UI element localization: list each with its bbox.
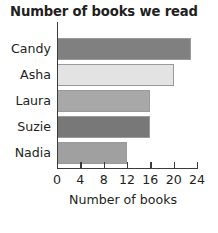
category-label-asha: Asha	[20, 64, 57, 86]
bar-laura[interactable]	[57, 90, 150, 112]
bar-asha[interactable]	[57, 64, 174, 86]
x-axis-tick	[174, 162, 175, 168]
x-axis-tick-label: 16	[137, 172, 163, 187]
x-axis-tick	[197, 162, 198, 168]
chart-title: Number of books we read	[10, 4, 216, 19]
x-axis-tick-label: 4	[67, 172, 93, 187]
bar-suzie[interactable]	[57, 116, 150, 138]
x-axis-tick-label: 0	[44, 172, 70, 187]
x-axis-tick	[127, 162, 128, 168]
x-axis-line	[57, 168, 198, 169]
bar-nadia[interactable]	[57, 142, 127, 164]
x-axis-tick	[150, 162, 151, 168]
x-axis-tick	[57, 162, 58, 168]
bar-chart-figure: Number of books we read Candy Asha Laura…	[0, 0, 218, 233]
plot-area: Candy Asha Laura Suzie Nadia	[57, 33, 197, 169]
x-axis-tick-label: 12	[114, 172, 140, 187]
category-label-laura: Laura	[15, 90, 57, 112]
x-axis-tick	[80, 162, 81, 168]
x-axis-title: Number of books	[28, 192, 218, 207]
x-axis-tick-label: 20	[161, 172, 187, 187]
category-label-nadia: Nadia	[15, 142, 57, 164]
y-axis-line	[57, 22, 58, 169]
category-label-suzie: Suzie	[17, 116, 57, 138]
x-axis-tick	[104, 162, 105, 168]
x-axis-tick-label: 24	[184, 172, 210, 187]
x-axis-tick-label: 8	[91, 172, 117, 187]
category-label-candy: Candy	[11, 38, 57, 60]
bar-candy[interactable]	[57, 38, 191, 60]
